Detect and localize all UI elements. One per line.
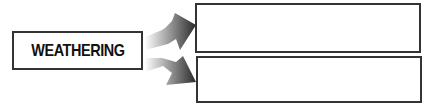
answer-box-2[interactable]: [196, 56, 422, 103]
weathering-box: WEATHERING: [12, 31, 143, 70]
answer-box-1[interactable]: [195, 3, 421, 53]
weathering-label: WEATHERING: [31, 41, 124, 61]
arrow-up-icon: [145, 13, 196, 50]
arrow-down-icon: [145, 56, 196, 85]
